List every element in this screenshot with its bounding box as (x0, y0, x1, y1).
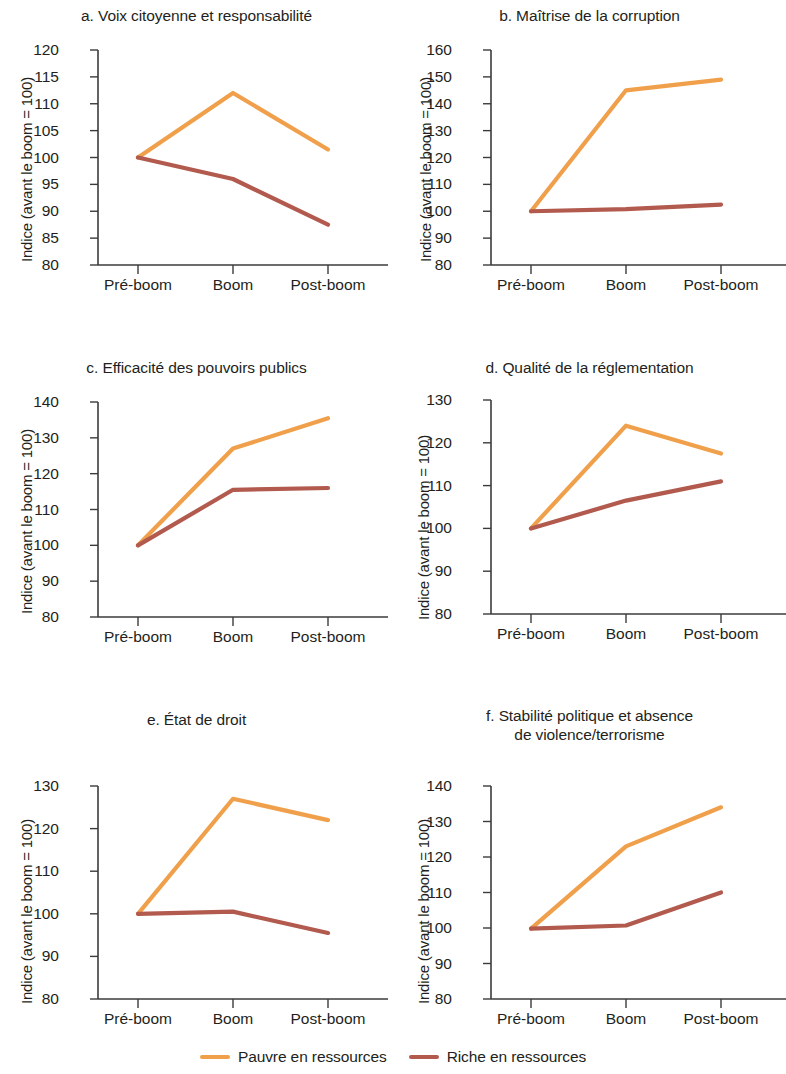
y-tick-label: 120 (426, 149, 452, 166)
x-tick-label: Boom (606, 625, 647, 642)
series-line-pauvre (138, 93, 328, 158)
y-tick-label: 130 (33, 429, 59, 446)
y-tick-label: 90 (42, 947, 60, 964)
x-tick-label: Pré-boom (104, 276, 172, 293)
series-line-pauvre (138, 799, 328, 914)
x-tick-label: Pré-boom (497, 625, 565, 642)
series-line-riche (138, 158, 328, 225)
x-tick-label: Pré-boom (497, 1010, 565, 1027)
panel-d-plot: 8090100110120130Pré-boomBoomPost-boom (393, 352, 786, 692)
y-tick-label: 130 (426, 813, 452, 830)
x-tick-label: Boom (606, 1010, 647, 1027)
series-line-pauvre (531, 807, 721, 928)
y-tick-label: 80 (42, 608, 60, 625)
panel-e-plot: 8090100110120130Pré-boomBoomPost-boom (0, 704, 393, 1044)
y-tick-label: 90 (435, 955, 453, 972)
y-tick-label: 160 (426, 41, 452, 58)
y-tick-label: 140 (33, 393, 59, 410)
x-tick-label: Pré-boom (104, 1010, 172, 1027)
y-tick-label: 90 (435, 562, 453, 579)
x-tick-label: Post-boom (684, 276, 759, 293)
y-tick-label: 80 (435, 256, 453, 273)
y-tick-label: 80 (435, 605, 453, 622)
y-tick-label: 130 (33, 777, 59, 794)
legend-label-pauvre: Pauvre en ressources (238, 1048, 387, 1066)
y-tick-label: 110 (34, 95, 59, 112)
y-tick-label: 100 (426, 202, 452, 219)
y-tick-label: 110 (427, 477, 452, 494)
y-tick-label: 110 (34, 501, 59, 518)
y-tick-label: 100 (426, 919, 452, 936)
y-tick-label: 80 (42, 990, 60, 1007)
y-tick-label: 90 (435, 229, 453, 246)
y-tick-label: 120 (426, 848, 452, 865)
y-tick-label: 80 (435, 990, 453, 1007)
series-line-riche (138, 912, 328, 933)
y-tick-label: 100 (33, 149, 59, 166)
panel-b-maitrise-corruption: b. Maîtrise de la corruption Indice (ava… (393, 0, 786, 340)
series-line-riche (531, 893, 721, 929)
series-line-pauvre (531, 80, 721, 212)
panel-f-stabilite-politique: f. Stabilité politique et absence de vio… (393, 704, 786, 1044)
legend-item-riche: Riche en ressources (409, 1048, 586, 1066)
panel-a-plot: 80859095100105110115120Pré-boomBoomPost-… (0, 0, 393, 340)
panel-a-voix-citoyenne: a. Voix citoyenne et responsabilité Indi… (0, 0, 393, 340)
y-tick-label: 120 (33, 820, 59, 837)
y-tick-label: 100 (33, 536, 59, 553)
y-tick-label: 110 (427, 884, 452, 901)
panel-d-qualite-reglementation: d. Qualité de la réglementation Indice (… (393, 352, 786, 692)
x-tick-label: Boom (213, 628, 254, 645)
panel-e-etat-de-droit: e. État de droit Indice (avant le boom =… (0, 704, 393, 1044)
y-tick-label: 80 (42, 256, 60, 273)
x-tick-label: Post-boom (684, 625, 759, 642)
y-tick-label: 110 (34, 862, 59, 879)
x-tick-label: Pré-boom (104, 628, 172, 645)
legend: Pauvre en ressources Riche en ressources (0, 1048, 786, 1066)
x-tick-label: Post-boom (684, 1010, 759, 1027)
y-tick-label: 140 (426, 777, 452, 794)
y-tick-label: 120 (426, 434, 452, 451)
governance-indices-figure: a. Voix citoyenne et responsabilité Indi… (0, 0, 786, 1074)
y-tick-label: 115 (34, 68, 59, 85)
panel-f-plot: 8090100110120130140Pré-boomBoomPost-boom (393, 704, 786, 1044)
x-tick-label: Post-boom (291, 628, 366, 645)
series-line-riche (531, 205, 721, 212)
panel-c-plot: 8090100110120130140Pré-boomBoomPost-boom (0, 352, 393, 692)
y-tick-label: 130 (426, 122, 452, 139)
legend-swatch-line-icon (409, 1055, 439, 1060)
y-tick-label: 100 (33, 905, 59, 922)
y-tick-label: 140 (426, 95, 452, 112)
x-tick-label: Post-boom (291, 1010, 366, 1027)
y-tick-label: 150 (426, 68, 452, 85)
y-tick-label: 95 (42, 175, 59, 192)
y-tick-label: 120 (33, 465, 59, 482)
x-tick-label: Boom (213, 1010, 254, 1027)
panel-c-efficacite-pouvoirs-publics: c. Efficacité des pouvoirs publics Indic… (0, 352, 393, 692)
legend-swatch-line-icon (200, 1055, 230, 1060)
x-tick-label: Boom (606, 276, 647, 293)
y-tick-label: 110 (427, 175, 452, 192)
panel-b-plot: 8090100110120130140150160Pré-boomBoomPos… (393, 0, 786, 340)
y-tick-label: 90 (42, 572, 60, 589)
y-tick-label: 105 (33, 122, 59, 139)
legend-item-pauvre: Pauvre en ressources (200, 1048, 387, 1066)
y-tick-label: 100 (426, 519, 452, 536)
series-line-riche (531, 481, 721, 528)
x-tick-label: Post-boom (291, 276, 366, 293)
y-tick-label: 90 (42, 202, 60, 219)
series-line-pauvre (531, 426, 721, 529)
y-tick-label: 120 (33, 41, 59, 58)
y-tick-label: 85 (42, 229, 59, 246)
x-tick-label: Pré-boom (497, 276, 565, 293)
legend-label-riche: Riche en ressources (447, 1048, 586, 1066)
y-tick-label: 130 (426, 391, 452, 408)
x-tick-label: Boom (213, 276, 254, 293)
